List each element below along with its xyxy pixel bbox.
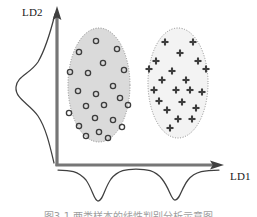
marker-circle [66, 110, 71, 115]
ld2-marginal-density-curve [16, 14, 55, 163]
cluster-plus-group [146, 28, 210, 138]
x-axis-label: LD1 [230, 170, 251, 182]
y-axis-label: LD2 [22, 6, 43, 18]
ld1-marginal-density-curve [58, 169, 219, 201]
cluster-circles-group [66, 28, 130, 142]
figure-root: LD2 LD1 [0, 0, 257, 217]
ld-scatter-figure: LD2 LD1 [0, 0, 257, 217]
marker-circle [119, 124, 124, 129]
